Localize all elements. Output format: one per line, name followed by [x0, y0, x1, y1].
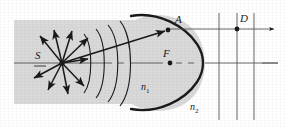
optics-diagram-figure: S A F D n1 n2: [0, 0, 285, 127]
point-a-dot: [166, 28, 171, 33]
label-index-n2-sub: 2: [195, 107, 199, 115]
label-index-n2: n2: [190, 102, 199, 115]
point-source-dot: [59, 60, 64, 65]
label-focus-F: F: [163, 48, 170, 59]
label-index-n1-sub: 1: [146, 87, 150, 95]
label-point-A: A: [175, 14, 182, 25]
label-point-D: D: [240, 13, 248, 24]
point-d-dot: [235, 27, 240, 32]
label-source-S: S: [35, 50, 41, 61]
point-f-dot: [168, 61, 173, 66]
label-index-n1: n1: [141, 82, 150, 95]
